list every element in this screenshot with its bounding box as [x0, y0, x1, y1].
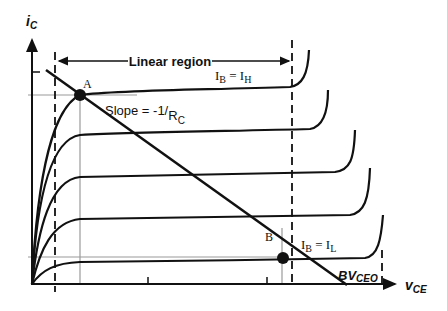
characteristic-diagram: Linear region A B Slope = -1/RC IB = IH … — [0, 0, 447, 311]
point-b-marker — [277, 252, 289, 264]
linear-region-label: Linear region — [129, 54, 211, 69]
ib-low-label: IB = IL — [301, 237, 336, 254]
guide-lines — [28, 95, 283, 284]
y-axis-label: iC — [26, 13, 38, 31]
bvceo-label: BVCEO — [338, 268, 378, 284]
point-b-label: B — [265, 230, 273, 244]
slope-label: Slope = -1/RC — [105, 103, 185, 126]
point-a-label: A — [83, 77, 92, 91]
ib-high-label: IB = IH — [215, 68, 251, 85]
x-axis-label: vCE — [405, 277, 427, 295]
curve-ib-high — [32, 50, 309, 284]
